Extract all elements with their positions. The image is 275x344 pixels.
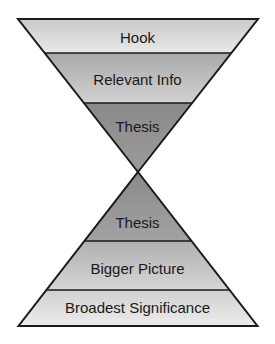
label-thesis-bottom: Thesis bbox=[0, 214, 275, 232]
label-broadest-significance: Broadest Significance bbox=[0, 299, 275, 317]
label-relevant-info: Relevant Info bbox=[0, 71, 275, 89]
label-bigger-picture: Bigger Picture bbox=[0, 260, 275, 278]
label-thesis-top: Thesis bbox=[0, 118, 275, 136]
funnel-layer-thesis bbox=[84, 103, 192, 172]
hourglass-diagram bbox=[0, 0, 275, 344]
label-hook: Hook bbox=[0, 29, 275, 47]
